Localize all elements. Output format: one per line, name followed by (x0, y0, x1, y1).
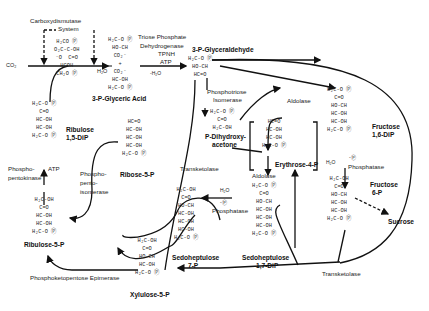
enzyme-transketolase-bottom: Transketolase (322, 271, 361, 277)
input-h2o: H₂O (97, 69, 107, 75)
label-sdp-2: 1,7-DiP (256, 263, 278, 270)
label-fdp-1: Fructose (372, 124, 400, 131)
compound-ru5p: H₂C-OH C=O HC-OH HC-OH H₂C-O Ⓟ (32, 196, 56, 236)
h2o-mid: H₂O (220, 188, 229, 193)
enzyme-system: System (58, 26, 79, 32)
input-co2: CO₂ (6, 63, 16, 69)
compound-rudp: H₂C-O Ⓟ C=O HC-OH HC-OH H₂C-O Ⓟ (32, 100, 56, 140)
enzyme-atp: ATP (160, 59, 172, 65)
compound-sdp: H₂C-O Ⓟ C=O HO-CH HC-OH HC-OH HC-OH H₂C-… (252, 182, 276, 238)
label-dhap-1: P-Dihydroxy- (205, 134, 246, 141)
compound-gap: H₂C-O Ⓟ HO-CH HC=O (188, 55, 212, 79)
minus-h2o: -H₂O (150, 71, 161, 76)
compound-s7p: H₂C-OH C=O HO-CH HC-OH HC-OH HC-OH H₂C-O… (174, 186, 198, 242)
label-atp-kinase: ATP (48, 166, 60, 172)
enzyme-transketolase-mid: Transketolase (180, 166, 219, 172)
enzyme-triose-dh-1: Triose Phosphate (138, 34, 186, 40)
label-ru5p: Ribulose-5-P (24, 242, 64, 249)
label-r5p: Ribose-5-P (120, 172, 154, 179)
enzyme-aldolase-top: Aldolase (287, 98, 311, 104)
label-dhap-2: acetone (212, 142, 237, 149)
compound-dhap: H₂C-O Ⓟ C=O H₂C-OH (210, 108, 234, 132)
enzyme-triose-dh-2: Dehydrogenase (140, 43, 184, 49)
enzyme-phosphotriose-2: Isomerase (213, 97, 242, 103)
minus-p-mid: -Ⓟ (220, 200, 227, 205)
enzyme-carboxydismutase: Carboxydismutase (30, 18, 81, 24)
compound-r5p: HC=O HC-OH HC-OH HC-OH H₂C-O Ⓟ (122, 118, 146, 158)
h2o-right: H₂O (326, 160, 335, 165)
compound-f6p: H₂C-OH C=O HO-CH HC-OH HC-OH H₂C-O Ⓟ (327, 175, 351, 223)
enzyme-phosphatase-mid: Phosphatase (212, 208, 248, 214)
label-s7p-2: 7-P (188, 263, 198, 270)
compound-xu5p: H₂C-OH C=O HO-CH HC-OH H₂C-O Ⓟ (135, 237, 159, 277)
enzyme-phosphopento-2: pento- (80, 180, 98, 186)
label-rudp-1: Ribulose (66, 127, 94, 134)
compound-intermediate: H₂CO Ⓟ O₂C-C-OH ⁻O C=O HCOH CH₂O Ⓟ (54, 38, 79, 78)
label-pga: 3-P-Glyceric Acid (92, 96, 146, 103)
label-rudp-2: 1,5-DiP (66, 135, 88, 142)
label-sdp-1: Sedoheptulose (242, 255, 289, 262)
minus-p-right: -Ⓟ (349, 155, 356, 160)
label-xu5p: Xylulose-5-P (130, 292, 170, 299)
label-e4p: Erythrose-4-P (275, 162, 318, 169)
enzyme-phosphopentokinase-2: pentokinase (8, 175, 41, 181)
enzyme-aldolase-mid: Aldolase (252, 173, 276, 179)
label-gap: 3-P-Glyceraldehyde (192, 47, 254, 54)
enzyme-phosphatase-right: Phosphatase (348, 164, 384, 170)
enzyme-phosphopento-3: isomerase (80, 189, 109, 195)
enzyme-epimerase: Phosphoketopentose Epimerase (30, 275, 119, 281)
label-fdp-2: 1,6-DiP (372, 132, 394, 139)
compound-fdp: H₂C-O Ⓟ C=O HO-CH HC-OH HC-OH H₂C-O Ⓟ (327, 86, 351, 134)
enzyme-phosphotriose-1: Phosphotriose (207, 89, 247, 95)
enzyme-tpnh: TPNH (158, 51, 175, 57)
label-sucrose: Sucrose (388, 219, 414, 226)
enzyme-phosphopentokinase-1: Phospho- (8, 166, 35, 172)
compound-e4p: HC=O HC-OH HC-OH H₂C-O Ⓟ (262, 118, 286, 150)
label-f6p-2: 6-P (372, 190, 382, 197)
compound-pga: H₂C-O Ⓟ HO-CH CO₂⁻ + CO₂⁻ HC-OH H₂C-O Ⓟ (108, 36, 132, 92)
label-f6p-1: Fructose (370, 182, 398, 189)
enzyme-phosphopento-1: Phospho- (80, 171, 107, 177)
label-s7p-1: Sedoheptulose (172, 255, 219, 262)
